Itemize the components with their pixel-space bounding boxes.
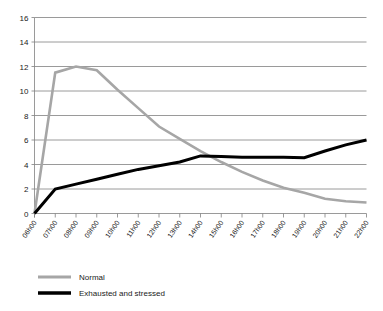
x-tick-label: 19h00 (291, 219, 308, 239)
y-tick-label: 8 (24, 112, 29, 121)
line-chart: 0246810121416 06h0007h0008h0009h0010h001… (0, 0, 383, 311)
chart-legend: NormalExhausted and stressed (38, 273, 165, 298)
axis-tickmarks (35, 214, 367, 218)
x-tick-label: 10h00 (104, 219, 121, 239)
x-tick-label: 16h00 (228, 219, 245, 239)
y-axis-tick-labels: 0246810121416 (20, 14, 35, 219)
x-tick-label: 18h00 (270, 219, 287, 239)
y-tick-label: 10 (20, 87, 29, 96)
y-tick-label: 14 (20, 38, 29, 47)
legend-label-exhausted-and-stressed: Exhausted and stressed (79, 289, 165, 298)
x-tick-label: 13h00 (166, 219, 183, 239)
x-tick-label: 14h00 (187, 219, 204, 239)
x-tick-label: 06h00 (21, 219, 38, 239)
y-tick-label: 12 (20, 63, 29, 72)
x-tick-label: 22h00 (353, 219, 370, 239)
x-tick-label: 09h00 (83, 219, 100, 239)
x-tick-label: 17h00 (249, 219, 266, 239)
x-tick-label: 15h00 (208, 219, 225, 239)
x-tick-label: 12h00 (145, 219, 162, 239)
x-tick-label: 08h00 (62, 219, 79, 239)
x-tick-label: 07h00 (42, 219, 59, 239)
y-tick-label: 16 (20, 14, 29, 23)
x-tick-label: 20h00 (311, 219, 328, 239)
y-tick-label: 0 (24, 210, 29, 219)
gridlines (35, 18, 367, 214)
x-axis-tick-labels: 06h0007h0008h0009h0010h0011h0012h0013h00… (21, 219, 370, 239)
legend-label-normal: Normal (79, 273, 105, 282)
x-tick-label: 21h00 (332, 219, 349, 239)
x-tick-label: 11h00 (125, 219, 142, 239)
chart-container: 0246810121416 06h0007h0008h0009h0010h001… (0, 0, 383, 311)
y-tick-label: 6 (24, 136, 29, 145)
y-tick-label: 4 (24, 161, 29, 170)
y-tick-label: 2 (24, 185, 29, 194)
